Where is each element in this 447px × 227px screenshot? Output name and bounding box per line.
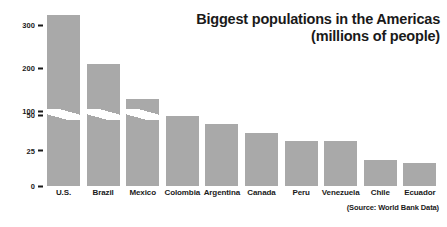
y-axis-tick-25: 25	[17, 146, 46, 155]
bar-rect	[324, 141, 357, 186]
y-tick-mark	[38, 114, 43, 116]
y-tick-mark	[38, 185, 43, 187]
plot-area: 30020010050250	[46, 8, 441, 186]
y-tick-label: 300	[17, 21, 35, 30]
y-axis-tick-50: 50	[17, 111, 46, 120]
x-axis-labels: U.S.BrazilMexicoColombiaArgentinaCanadaP…	[46, 188, 441, 202]
bar-rect	[245, 133, 278, 186]
bar-rect	[205, 124, 238, 186]
chart-figure: Biggest populations in the Americas (mil…	[0, 0, 447, 227]
y-axis-tick-300: 300	[17, 21, 46, 30]
y-tick-mark	[38, 24, 43, 26]
y-tick-label: 50	[17, 111, 35, 120]
bar-rect	[403, 163, 436, 186]
bar-rect	[126, 99, 159, 186]
bar-rect	[47, 15, 80, 186]
bar-series	[46, 8, 441, 186]
bar-rect	[87, 64, 120, 186]
y-tick-label: 25	[17, 146, 35, 155]
y-tick-label: 200	[17, 64, 35, 73]
source-note: (Source: World Bank Data)	[347, 203, 439, 212]
bar-rect	[166, 116, 199, 186]
y-tick-mark	[38, 67, 43, 69]
bar-rect	[364, 160, 397, 186]
y-axis-tick-200: 200	[17, 64, 46, 73]
bar-rect	[285, 141, 318, 186]
y-tick-mark	[38, 150, 43, 152]
y-tick-label: 0	[17, 182, 35, 191]
x-axis-label-ecuador: Ecuador	[397, 188, 443, 197]
